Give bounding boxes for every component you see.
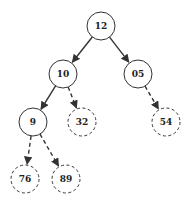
tree-node-76: 76 [11, 165, 39, 193]
tree-node-89: 89 [52, 165, 80, 193]
nodes-group: 121005932547689 [11, 12, 180, 193]
tree-node-10: 10 [49, 60, 77, 88]
tree-node-05: 05 [124, 60, 152, 88]
binary-tree-diagram: 121005932547689 [0, 0, 191, 208]
node-label: 9 [30, 117, 36, 127]
node-label: 89 [60, 174, 73, 184]
node-label: 54 [160, 117, 173, 127]
edge-05-to-54 [145, 86, 158, 109]
tree-node-12: 12 [87, 12, 115, 40]
tree-node-9: 9 [19, 108, 47, 136]
edge-9-to-89 [40, 134, 58, 166]
node-label: 10 [57, 69, 70, 79]
node-label: 76 [19, 174, 32, 184]
edge-12-to-05 [110, 37, 129, 62]
tree-node-32: 32 [68, 108, 96, 136]
node-label: 12 [95, 21, 108, 31]
edge-10-to-9 [41, 86, 56, 109]
tree-node-54: 54 [152, 108, 180, 136]
edges-group [27, 37, 158, 166]
node-label: 05 [132, 69, 145, 79]
edge-12-to-10 [72, 37, 92, 62]
node-label: 32 [76, 117, 89, 127]
edge-10-to-32 [68, 87, 76, 108]
edge-9-to-76 [27, 136, 31, 164]
